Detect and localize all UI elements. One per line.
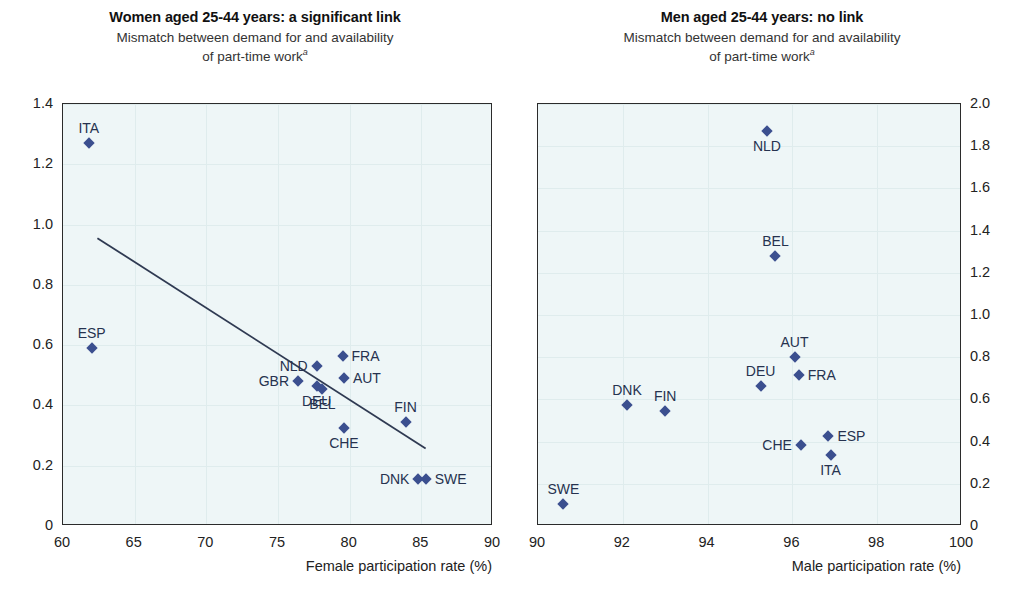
- regression-trendline-women: [63, 104, 493, 526]
- y-axis-tick-label-men: 0.6: [970, 390, 990, 406]
- data-point-label-dnk-women: DNK: [380, 471, 410, 487]
- data-point-label-esp-men: ESP: [837, 428, 865, 444]
- plot-area-men: NLDBELAUTFRADEUDNKFINESPCHEITASWE: [537, 103, 961, 525]
- data-point-label-che-women: CHE: [329, 435, 359, 451]
- data-point-label-fin-men: FIN: [654, 388, 677, 404]
- data-point-marker-swe-men: [558, 498, 569, 509]
- panel-women-subtitle: Mismatch between demand for and availabi…: [0, 29, 510, 65]
- x-axis-title-women: Female participation rate (%): [306, 558, 492, 574]
- x-axis-tick-label-men: 90: [529, 534, 545, 550]
- data-point-label-swe-women: SWE: [435, 471, 467, 487]
- data-point-label-nld-men: NLD: [753, 138, 781, 154]
- y-axis-tick-label-women: 0.6: [0, 336, 53, 352]
- x-axis-tick-label-men: 100: [949, 534, 973, 550]
- x-axis-tick-label-women: 70: [197, 534, 213, 550]
- panel-women-subtitle-superscript: a: [303, 47, 308, 57]
- y-axis-tick-label-men: 1.2: [970, 264, 990, 280]
- y-axis-tick-label-men: 1.0: [970, 306, 990, 322]
- gridline-horizontal: [538, 273, 960, 274]
- panel-men-title: Men aged 25-44 years: no link: [507, 8, 1017, 26]
- data-point-label-fin-women: FIN: [394, 399, 417, 415]
- y-axis-tick-label-men: 0.2: [970, 475, 990, 491]
- y-axis-tick-label-men: 0: [970, 517, 978, 533]
- gridline-vertical: [708, 104, 709, 524]
- plot-area-women: ITAESPGBRNLDFRAAUTDEUBELCHEFINDNKSWE: [62, 103, 492, 525]
- data-point-marker-aut-men: [789, 352, 800, 363]
- y-axis-tick-label-women: 1.2: [0, 155, 53, 171]
- gridline-horizontal: [538, 399, 960, 400]
- x-axis-tick-label-men: 96: [783, 534, 799, 550]
- gridline-vertical: [792, 104, 793, 524]
- panel-men-subtitle-line1: Mismatch between demand for and availabi…: [624, 30, 901, 45]
- gridline-horizontal: [538, 188, 960, 189]
- data-point-label-fra-men: FRA: [808, 367, 836, 383]
- gridline-horizontal: [538, 146, 960, 147]
- gridline-vertical: [623, 104, 624, 524]
- data-point-label-ita-men: ITA: [820, 462, 841, 478]
- gridline-horizontal: [538, 315, 960, 316]
- panel-men-titles: Men aged 25-44 years: no link Mismatch b…: [507, 8, 1017, 65]
- y-axis-tick-label-women: 0.2: [0, 457, 53, 473]
- panel-women-titles: Women aged 25-44 years: a significant li…: [0, 8, 510, 65]
- y-axis-tick-label-women: 0: [0, 517, 53, 533]
- data-point-label-gbr-women: GBR: [259, 373, 289, 389]
- data-point-marker-ita-men: [825, 450, 836, 461]
- figure-two-panel-scatter: Women aged 25-44 years: a significant li…: [0, 0, 1017, 593]
- panel-men-subtitle: Mismatch between demand for and availabi…: [507, 29, 1017, 65]
- gridline-vertical: [877, 104, 878, 524]
- data-point-label-bel-men: BEL: [762, 233, 788, 249]
- gridline-horizontal: [538, 231, 960, 232]
- data-point-marker-esp-men: [823, 431, 834, 442]
- panel-men-subtitle-line2: of part-time work: [709, 48, 810, 63]
- gridline-horizontal: [538, 357, 960, 358]
- data-point-label-deu-men: DEU: [746, 363, 776, 379]
- x-axis-tick-label-women: 75: [269, 534, 285, 550]
- x-axis-tick-label-men: 92: [614, 534, 630, 550]
- y-axis-tick-label-men: 0.8: [970, 348, 990, 364]
- panel-women-subtitle-line1: Mismatch between demand for and availabi…: [117, 30, 394, 45]
- panel-women-subtitle-line2: of part-time work: [202, 48, 303, 63]
- data-point-label-swe-men: SWE: [547, 481, 579, 497]
- panel-women: Women aged 25-44 years: a significant li…: [0, 0, 510, 593]
- data-point-label-ita-women: ITA: [78, 120, 99, 136]
- y-axis-tick-label-men: 1.4: [970, 222, 990, 238]
- x-axis-tick-label-women: 90: [484, 534, 500, 550]
- y-axis-tick-label-women: 1.0: [0, 216, 53, 232]
- data-point-label-nld-women: NLD: [280, 358, 308, 374]
- y-axis-tick-label-men: 1.8: [970, 137, 990, 153]
- y-axis-tick-label-men: 0.4: [970, 433, 990, 449]
- x-axis-tick-label-women: 60: [54, 534, 70, 550]
- data-point-label-aut-men: AUT: [781, 334, 809, 350]
- data-point-marker-nld-men: [761, 126, 772, 137]
- data-point-marker-deu-men: [755, 380, 766, 391]
- data-point-label-che-men: CHE: [762, 437, 792, 453]
- y-axis-tick-label-men: 2.0: [970, 95, 990, 111]
- data-point-label-fra-women: FRA: [352, 348, 380, 364]
- data-point-marker-fin-men: [660, 405, 671, 416]
- data-point-label-aut-women: AUT: [353, 370, 381, 386]
- gridline-horizontal: [538, 442, 960, 443]
- panel-women-title: Women aged 25-44 years: a significant li…: [0, 8, 510, 26]
- data-point-label-esp-women: ESP: [78, 325, 106, 341]
- x-axis-title-men: Male participation rate (%): [792, 558, 961, 574]
- y-axis-tick-label-women: 0.4: [0, 396, 53, 412]
- x-axis-tick-label-men: 98: [868, 534, 884, 550]
- data-point-label-dnk-men: DNK: [612, 382, 642, 398]
- data-point-label-bel-women: BEL: [309, 396, 335, 412]
- gridline-horizontal: [538, 104, 960, 105]
- y-axis-tick-label-men: 1.6: [970, 179, 990, 195]
- x-axis-tick-label-men: 94: [699, 534, 715, 550]
- x-axis-tick-label-women: 85: [412, 534, 428, 550]
- x-axis-tick-label-women: 65: [126, 534, 142, 550]
- data-point-marker-fra-men: [793, 369, 804, 380]
- y-axis-tick-label-women: 1.4: [0, 95, 53, 111]
- y-axis-tick-label-women: 0.8: [0, 276, 53, 292]
- panel-men-subtitle-superscript: a: [810, 47, 815, 57]
- x-axis-tick-label-women: 80: [341, 534, 357, 550]
- data-point-marker-bel-men: [770, 250, 781, 261]
- gridline-horizontal: [538, 484, 960, 485]
